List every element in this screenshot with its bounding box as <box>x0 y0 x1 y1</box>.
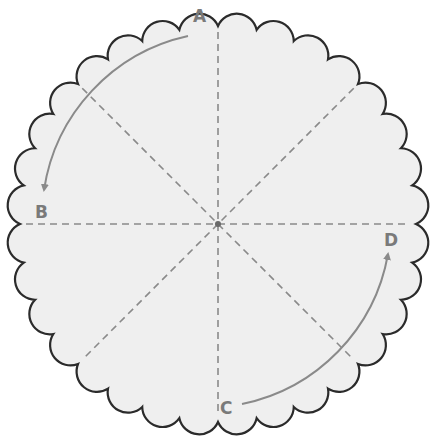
center-point <box>215 221 221 227</box>
label-a: A <box>193 6 207 26</box>
label-b: B <box>35 202 48 222</box>
folding-diagram: A B C D <box>0 0 430 442</box>
label-c: C <box>220 398 232 418</box>
label-d: D <box>384 230 398 250</box>
